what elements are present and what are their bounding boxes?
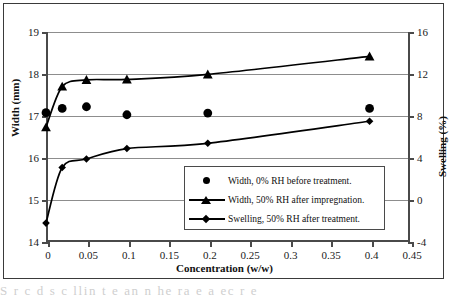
- diamond-data-point: [366, 117, 374, 125]
- y-right-tick-label: 8: [417, 110, 423, 122]
- y-right-tick-label: 0: [417, 194, 423, 206]
- diamond-data-point: [123, 145, 131, 153]
- y-left-tick-label: 19: [28, 26, 39, 38]
- x-tick: [291, 242, 293, 247]
- x-tick: [169, 242, 171, 247]
- x-tick: [250, 242, 252, 247]
- chart-legend: Width, 0% RH before treatment. Width, 50…: [184, 166, 385, 230]
- legend-entry-width-50rh: Width, 50% RH after impregnation.: [185, 190, 384, 209]
- legend-entry-swelling-50rh: Swelling, 50% RH after treatment.: [185, 209, 384, 228]
- x-tick-label: 0: [45, 249, 51, 261]
- x-tick: [372, 242, 374, 247]
- diamond-marker-icon: [185, 209, 227, 228]
- circle-data-point: [122, 110, 131, 119]
- y-right-axis-title: Swelling (%): [436, 116, 448, 177]
- legend-label: Width, 0% RH before treatment.: [227, 176, 352, 186]
- y-right-tick-label: 4: [417, 152, 423, 164]
- x-tick: [331, 242, 333, 247]
- y-right-tick-label: 12: [417, 68, 428, 80]
- y-left-tick-label: 15: [28, 194, 39, 206]
- x-tick-label: 0.45: [402, 249, 421, 261]
- circle-data-point: [58, 104, 67, 113]
- x-tick: [48, 242, 50, 247]
- page-caption-fragment: S r c d s c llin t e an n he ra e a ec r…: [0, 283, 449, 299]
- x-tick-label: 0.25: [241, 249, 260, 261]
- x-tick-label: 0.2: [203, 249, 217, 261]
- y-left-tick-label: 18: [28, 68, 39, 80]
- circle-marker-icon: [185, 171, 227, 190]
- legend-entry-width-0rh: Width, 0% RH before treatment.: [185, 171, 384, 190]
- triangle-marker-icon: [185, 190, 227, 209]
- y-right-tick-label: -4: [417, 236, 426, 248]
- series-2: [41, 51, 374, 131]
- x-tick: [210, 242, 212, 247]
- x-tick-label: 0.3: [284, 249, 298, 261]
- x-tick-label: 0.15: [160, 249, 179, 261]
- x-tick-label: 0.05: [79, 249, 98, 261]
- y-left-tick-label: 17: [28, 110, 39, 122]
- figure-container: 141516171819 -40481216 00.050.10.150.20.…: [0, 0, 449, 299]
- diamond-data-point: [204, 140, 212, 148]
- legend-label: Swelling, 50% RH after treatment.: [227, 214, 360, 224]
- x-tick: [88, 242, 90, 247]
- y-left-tick-label: 16: [28, 152, 39, 164]
- x-tick-label: 0.35: [321, 249, 340, 261]
- x-tick: [412, 242, 414, 247]
- y-left-tick-label: 14: [28, 236, 39, 248]
- circle-data-point: [203, 109, 212, 118]
- x-axis-title: Concentration (w/w): [0, 262, 449, 274]
- legend-label: Width, 50% RH after impregnation.: [227, 195, 364, 205]
- x-tick-label: 0.4: [365, 249, 379, 261]
- circle-data-point: [365, 104, 374, 113]
- y-right-tick-label: 16: [417, 26, 428, 38]
- circle-data-point: [82, 102, 91, 111]
- series-1: [42, 102, 374, 119]
- x-tick-label: 0.1: [122, 249, 136, 261]
- x-tick: [129, 242, 131, 247]
- y-left-axis-title: Width (mm): [9, 79, 21, 137]
- diamond-data-point: [83, 155, 91, 163]
